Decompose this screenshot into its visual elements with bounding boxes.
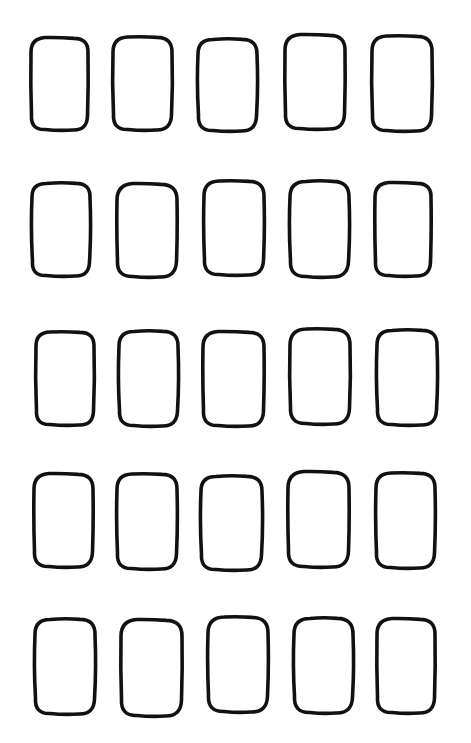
rounded-rectangle-outline — [36, 332, 95, 426]
rounded-rectangle-outline — [117, 474, 178, 570]
rounded-rectangle-outline — [121, 619, 182, 716]
rounded-rectangle-outline — [289, 181, 349, 278]
shape-row-4 — [34, 471, 436, 570]
rounded-rectangle-outline — [293, 618, 353, 714]
shape-row-2 — [31, 181, 431, 278]
shape-grid — [31, 34, 438, 716]
rounded-rectangle-outline — [34, 619, 95, 715]
rounded-rectangle-outline — [290, 329, 351, 425]
rounded-rectangle-outline — [113, 37, 173, 131]
shape-row-3 — [36, 329, 438, 427]
rounded-rectangle-outline — [117, 183, 177, 277]
rounded-rectangle-outline — [376, 330, 437, 426]
rounded-rectangle-outline — [203, 331, 264, 426]
shape-row-1 — [31, 34, 433, 131]
rounded-rectangle-outline — [285, 34, 345, 129]
shape-row-5 — [34, 617, 435, 717]
rounded-rectangle-outline — [118, 331, 178, 427]
rounded-rectangle-outline — [200, 476, 262, 571]
rounded-rectangle-outline — [34, 473, 93, 567]
drawing-canvas — [0, 0, 471, 743]
rounded-rectangle-outline — [31, 37, 88, 130]
rounded-rectangle-outline — [208, 617, 269, 713]
rounded-rectangle-outline — [288, 471, 349, 567]
rounded-rectangle-outline — [376, 473, 436, 569]
rounded-rectangle-outline — [372, 36, 433, 132]
rounded-rectangle-outline — [197, 39, 257, 132]
rounded-rectangle-outline — [31, 183, 90, 277]
rounded-rectangle-outline — [377, 618, 435, 713]
rounded-rectangle-outline — [375, 182, 431, 276]
rounded-rectangle-outline — [204, 181, 265, 276]
